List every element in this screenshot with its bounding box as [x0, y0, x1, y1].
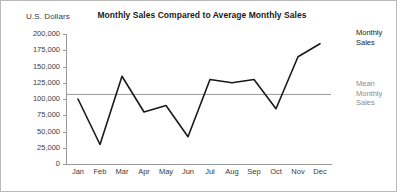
x-axis-ticks: JanFebMarAprMayJunJulAugSepOctNovDec: [67, 167, 331, 183]
x-tick-label: Apr: [138, 167, 150, 176]
x-tick-label: Aug: [225, 167, 238, 176]
x-tick-label: Oct: [270, 167, 282, 176]
legend-mean-line3: Sales: [356, 98, 382, 108]
y-tick-label: 100,000: [33, 94, 60, 103]
x-tick-label: Jul: [205, 167, 215, 176]
x-tick-label: May: [159, 167, 173, 176]
plot-area: [67, 34, 331, 164]
x-tick-label: Jun: [182, 167, 194, 176]
y-tick-mark: [63, 132, 66, 133]
x-axis-line: [66, 164, 332, 165]
legend-mean-line1: Mean: [356, 79, 382, 89]
y-tick-mark: [63, 50, 66, 51]
chart-container: U.S. Dollars Monthly Sales Compared to A…: [0, 0, 397, 192]
y-tick-label: 75,000: [37, 110, 60, 119]
y-axis-title: U.S. Dollars: [26, 12, 70, 21]
y-tick-mark: [63, 148, 66, 149]
y-tick-mark: [63, 83, 66, 84]
y-tick-label: 50,000: [37, 127, 60, 136]
y-tick-mark: [63, 164, 66, 165]
x-tick-label: Sep: [247, 167, 260, 176]
legend-monthly-sales-line2: Sales: [356, 38, 382, 48]
y-tick-label: 200,000: [33, 29, 60, 38]
y-tick-mark: [63, 99, 66, 100]
legend-monthly-sales-line1: Monthly: [356, 28, 382, 38]
y-axis-ticks: 200,000175,000150,000125,000100,00075,00…: [1, 34, 66, 164]
y-tick-label: 0: [56, 159, 60, 168]
x-tick-label: Dec: [313, 167, 326, 176]
y-tick-mark: [63, 67, 66, 68]
x-tick-label: Jan: [72, 167, 84, 176]
chart-title: Monthly Sales Compared to Average Monthl…: [73, 10, 331, 20]
legend-mean-line2: Monthly: [356, 89, 382, 99]
y-tick-label: 25,000: [37, 143, 60, 152]
legend-mean-monthly-sales: Mean Monthly Sales: [356, 79, 382, 108]
x-tick-label: Nov: [291, 167, 304, 176]
x-tick-label: Feb: [94, 167, 107, 176]
legend-monthly-sales: Monthly Sales: [356, 28, 382, 47]
x-tick-label: Mar: [116, 167, 129, 176]
y-tick-mark: [63, 34, 66, 35]
y-tick-mark: [63, 115, 66, 116]
series-svg: [67, 34, 331, 164]
y-tick-label: 150,000: [33, 62, 60, 71]
y-tick-label: 125,000: [33, 78, 60, 87]
y-tick-label: 175,000: [33, 45, 60, 54]
